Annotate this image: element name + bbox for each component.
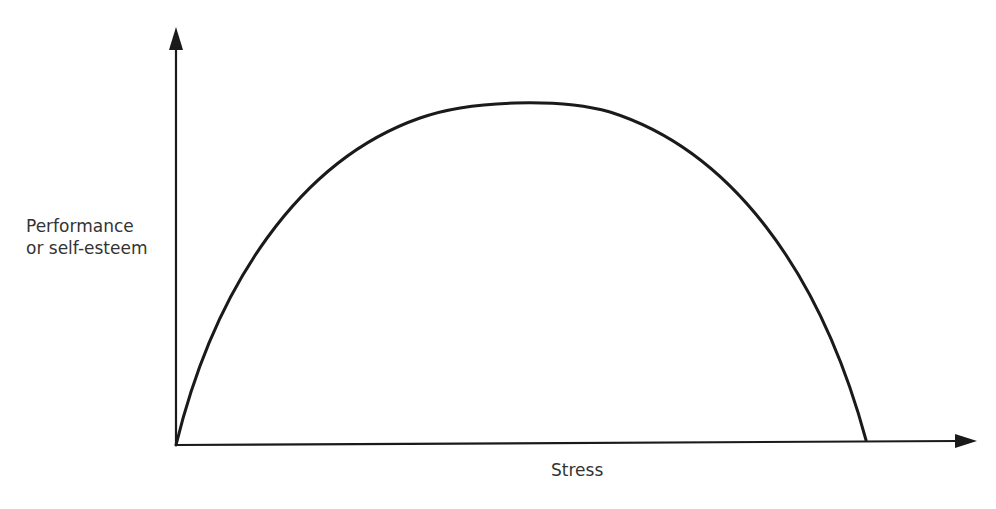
inverted-u-chart — [0, 0, 996, 509]
y-axis-arrow-icon — [169, 27, 183, 50]
performance-curve — [176, 103, 866, 445]
x-axis — [176, 441, 958, 445]
y-axis-label-line1: Performance — [26, 215, 147, 237]
y-axis-label: Performance or self-esteem — [26, 215, 147, 259]
x-axis-label: Stress — [551, 460, 603, 480]
x-axis-arrow-icon — [955, 434, 977, 448]
y-axis-label-line2: or self-esteem — [26, 237, 147, 259]
